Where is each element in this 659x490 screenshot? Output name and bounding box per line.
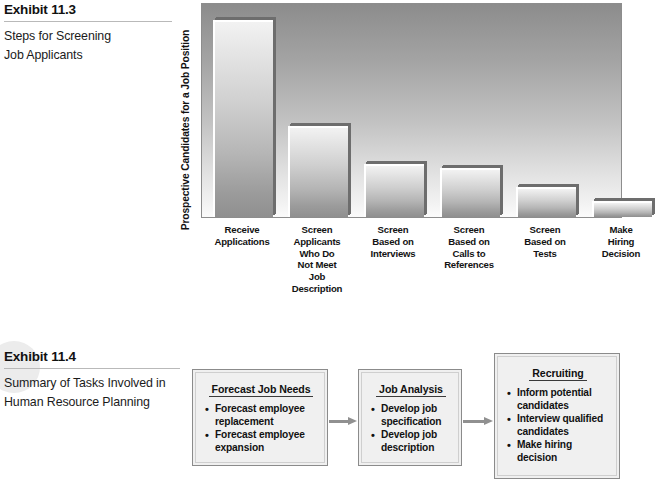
flow-arrow-2 (463, 417, 493, 426)
flow-arrow-1 (329, 417, 357, 426)
x-axis-label-line: Make (581, 224, 659, 236)
exhibit-114-subtitle: Summary of Tasks Involved in Human Resou… (4, 374, 184, 412)
flow-box-3: RecruitingInform potential candidatesInt… (494, 353, 620, 479)
arrow-shaft (463, 420, 485, 423)
exhibit-113-subtitle-line2: Job Applicants (4, 46, 176, 65)
bar-chart-bars (202, 4, 621, 217)
list-item: Make hiring decision (507, 439, 609, 464)
bar-chart-x-axis-labels: ReceiveApplicationsScreenApplicantsWho D… (201, 224, 622, 324)
flow-box-heading: Recruiting (529, 367, 586, 381)
bar-6 (592, 201, 652, 217)
x-axis-label-line: Not Meet (277, 259, 357, 271)
flow-box-list: Develop job specificationDevelop job des… (371, 403, 451, 454)
flow-box-list: Forecast employee replacementForecast em… (205, 403, 317, 454)
x-axis-label-line: Description (277, 283, 357, 295)
list-item: Develop job description (371, 429, 451, 454)
x-axis-label-line: Who Do (277, 248, 357, 260)
exhibit-113-caption: Exhibit 11.3 Steps for Screening Job App… (4, 2, 176, 65)
flow-box-heading-wrap: Job Analysis (371, 379, 451, 403)
x-axis-label-line: Applications (202, 236, 282, 248)
arrow-head-icon (484, 417, 493, 425)
x-axis-label-line: Screen (353, 224, 433, 236)
x-axis-label-line: Based on (429, 236, 509, 248)
exhibit-113-divider (4, 21, 172, 22)
x-axis-label-line: References (429, 259, 509, 271)
flow-box-2: Job AnalysisDevelop job specificationDev… (358, 369, 462, 466)
flow-box-list: Inform potential candidatesInterview qua… (507, 387, 609, 465)
flow-box-heading-wrap: Forecast Job Needs (205, 379, 317, 403)
x-axis-label-line: Job (277, 271, 357, 283)
x-axis-label-2: ScreenApplicantsWho DoNot MeetJobDescrip… (277, 224, 357, 295)
exhibit-113-subtitle-line1: Steps for Screening (4, 27, 176, 46)
exhibit-113-title: Exhibit 11.3 (4, 2, 176, 18)
list-item: Forecast employee replacement (205, 403, 317, 428)
x-axis-label-line: Tests (505, 248, 585, 260)
x-axis-label-3: ScreenBased onInterviews (353, 224, 433, 259)
bar-4 (440, 168, 500, 217)
x-axis-label-line: Screen (505, 224, 585, 236)
bar-chart-plot-area (201, 3, 622, 218)
x-axis-label-line: Calls to (429, 248, 509, 260)
list-item: Inform potential candidates (507, 387, 609, 412)
list-item: Forecast employee expansion (205, 429, 317, 454)
x-axis-label-line: Based on (505, 236, 585, 248)
x-axis-label-1: ReceiveApplications (202, 224, 282, 248)
x-axis-label-5: ScreenBased onTests (505, 224, 585, 259)
exhibit-114-title: Exhibit 11.4 (4, 349, 184, 365)
flow-box-inner: Job AnalysisDevelop job specificationDev… (361, 372, 459, 463)
x-axis-label-line: Decision (581, 248, 659, 260)
chart-y-axis-label: Prospective Candidates for a Job Positio… (176, 18, 196, 242)
x-axis-label-line: Applicants (277, 236, 357, 248)
x-axis-label-line: Based on (353, 236, 433, 248)
bar-2 (288, 126, 348, 217)
flow-box-heading-wrap: Recruiting (507, 363, 609, 387)
exhibit-114-divider (4, 368, 180, 369)
flow-box-inner: Forecast Job NeedsForecast employee repl… (195, 372, 325, 463)
bar-1 (213, 20, 273, 217)
exhibit-113-subtitle: Steps for Screening Job Applicants (4, 27, 176, 65)
x-axis-label-line: Interviews (353, 248, 433, 260)
bar-5 (516, 187, 576, 217)
exhibit-114-subtitle-line2: Human Resource Planning (4, 393, 184, 412)
arrow-shaft (329, 420, 349, 423)
list-item: Develop job specification (371, 403, 451, 428)
exhibit-114-subtitle-line1: Summary of Tasks Involved in (4, 374, 184, 393)
arrow-head-icon (348, 417, 357, 425)
flow-box-inner: RecruitingInform potential candidatesInt… (497, 356, 617, 476)
x-axis-label-line: Screen (429, 224, 509, 236)
x-axis-label-line: Screen (277, 224, 357, 236)
x-axis-label-line: Hiring (581, 236, 659, 248)
flow-box-1: Forecast Job NeedsForecast employee repl… (192, 369, 328, 466)
bar-3 (364, 164, 424, 217)
x-axis-label-line: Receive (202, 224, 282, 236)
x-axis-label-4: ScreenBased onCalls toReferences (429, 224, 509, 271)
exhibit-114-caption: Exhibit 11.4 Summary of Tasks Involved i… (4, 349, 184, 412)
list-item: Interview qualified candidates (507, 413, 609, 438)
flow-box-heading: Job Analysis (376, 383, 446, 397)
x-axis-label-6: MakeHiringDecision (581, 224, 659, 259)
flow-box-heading: Forecast Job Needs (209, 383, 314, 397)
